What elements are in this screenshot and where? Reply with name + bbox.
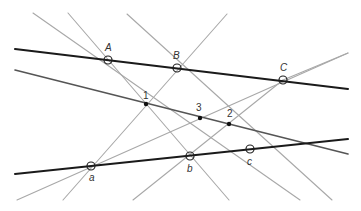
intersection-label-3: 3 bbox=[196, 102, 202, 113]
cross-line-a-c bbox=[33, 13, 300, 200]
intersection-1-dot bbox=[144, 102, 148, 106]
cross-line-a-c-ext bbox=[283, 53, 348, 80]
intersection-label-1: 1 bbox=[143, 90, 149, 101]
diagram-canvas: ABCabc132 bbox=[0, 0, 361, 211]
cross-line-b-c bbox=[133, 80, 283, 200]
cross-line-b-c bbox=[127, 14, 332, 200]
cross-line-b-a bbox=[63, 14, 227, 200]
point-label-b: b bbox=[187, 163, 193, 174]
cross-lines bbox=[17, 13, 348, 200]
point-label-c: c bbox=[247, 156, 252, 167]
point-label-B: B bbox=[173, 50, 180, 61]
cross-line-a-c bbox=[17, 53, 348, 200]
pappus-diagram: ABCabc132 bbox=[0, 0, 361, 211]
intersection-label-2: 2 bbox=[227, 108, 233, 119]
point-labels: ABCabc132 bbox=[89, 42, 288, 183]
intersection-2-dot bbox=[227, 122, 231, 126]
intersection-3-dot bbox=[198, 116, 202, 120]
point-label-a: a bbox=[89, 172, 95, 183]
point-label-A: A bbox=[104, 42, 112, 53]
point-label-C: C bbox=[280, 62, 288, 73]
